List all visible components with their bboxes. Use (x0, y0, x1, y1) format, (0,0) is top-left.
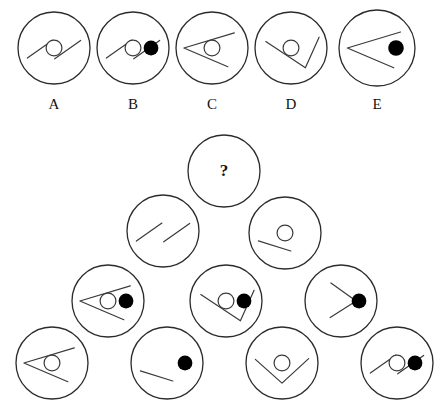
option-c-svg (173, 9, 251, 87)
matrix-cell-r2-c2-svg (246, 194, 324, 272)
option-label-e: E (357, 97, 397, 112)
question-mark: ? (220, 161, 229, 180)
matrix-cell-r4-c1 (13, 324, 91, 402)
option-a-svg (15, 9, 93, 87)
inner-ring (44, 355, 60, 371)
outer-circle (127, 195, 199, 267)
filled-dot (144, 41, 159, 56)
option-d-svg (252, 9, 330, 87)
matrix-cell-r4-c3 (243, 324, 321, 402)
inner-ring (125, 40, 141, 56)
inner-ring (100, 293, 116, 309)
option-e-svg (336, 7, 418, 89)
puzzle-canvas: ABCDE? (0, 0, 448, 409)
option-d[interactable] (252, 9, 330, 87)
filled-dot (119, 294, 134, 309)
filled-dot (408, 356, 423, 371)
matrix-cell-r4-c2-svg (128, 324, 206, 402)
inner-ring (389, 355, 405, 371)
inner-ring (274, 355, 290, 371)
matrix-cell-r2-c1-svg (124, 192, 202, 270)
filled-dot (237, 294, 252, 309)
filled-dot (352, 294, 367, 309)
matrix-cell-r4-c1-svg (13, 324, 91, 402)
filled-dot (388, 40, 404, 56)
option-a[interactable] (15, 9, 93, 87)
matrix-cell-r2-c1 (124, 192, 202, 270)
option-b[interactable] (94, 9, 172, 87)
inner-ring (218, 293, 234, 309)
option-label-c: C (192, 97, 232, 112)
option-b-svg (94, 9, 172, 87)
inner-ring (283, 40, 299, 56)
filled-dot (178, 356, 193, 371)
option-label-d: D (271, 97, 311, 112)
matrix-cell-r2-c2 (246, 194, 324, 272)
inner-ring (46, 40, 62, 56)
matrix-cell-r4-c4 (358, 324, 436, 402)
matrix-cell-r4-c2 (128, 324, 206, 402)
option-e[interactable] (336, 7, 418, 89)
option-c[interactable] (173, 9, 251, 87)
matrix-cell-r4-c4-svg (358, 324, 436, 402)
option-label-a: A (34, 97, 74, 112)
option-label-b: B (113, 97, 153, 112)
matrix-cell-r4-c3-svg (243, 324, 321, 402)
inner-ring (204, 40, 220, 56)
inner-ring (277, 225, 293, 241)
